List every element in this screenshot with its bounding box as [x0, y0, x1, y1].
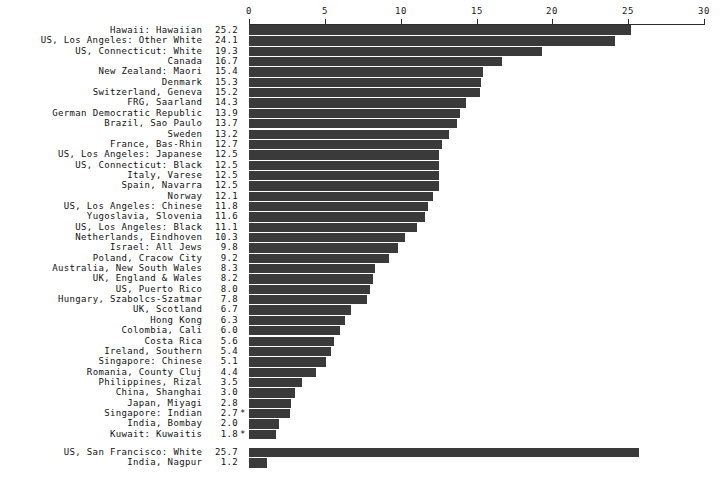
x-axis-tick-label: 10: [395, 7, 407, 16]
category-value: 1.8: [208, 429, 238, 439]
bar: [249, 273, 373, 283]
bar-row: Netherlands, Eindhoven 10.3: [0, 232, 725, 242]
category-name: India, Nagpur: [127, 457, 208, 467]
bar: [249, 263, 375, 273]
x-axis-tick: [325, 19, 326, 24]
bar-row: US, Puerto Rico 8.0: [0, 284, 725, 294]
category-name: Philippines, Rizal: [98, 377, 208, 387]
category-value: 10.3: [208, 232, 238, 242]
bar: [249, 408, 290, 418]
category-name: Singapore: Indian: [104, 408, 208, 418]
bar: [249, 118, 457, 128]
bar-row: Norway 12.1: [0, 191, 725, 201]
category-name: UK, Scotland: [133, 304, 208, 314]
bar-row-label: Philippines, Rizal 3.5: [98, 377, 238, 387]
bar-row-label: Spain, Navarra 12.5: [121, 180, 238, 190]
category-name: Hong Kong: [150, 315, 208, 325]
bar-row: Sweden 13.2: [0, 129, 725, 139]
bar-row-label: Norway 12.1: [168, 191, 238, 201]
footnote-asterisk: *: [240, 429, 245, 439]
x-axis-tick: [401, 19, 402, 24]
bar-row-label: US, Los Angeles: Chinese 11.8: [64, 201, 238, 211]
category-value: 2.8: [208, 398, 238, 408]
bar-row: US, Los Angeles: Chinese 11.8: [0, 201, 725, 211]
category-value: 19.3: [208, 46, 238, 56]
category-value: 2.0: [208, 418, 238, 428]
bar: [249, 66, 483, 76]
x-axis-tick: [552, 19, 553, 24]
bar-row-label: Canada 16.7: [168, 56, 238, 66]
bar-row: New Zealand: Maori 15.4: [0, 66, 725, 76]
category-value: 13.7: [208, 118, 238, 128]
bar-row-label: Kuwait: Kuwaitis 1.8: [110, 429, 238, 439]
bar-row: Italy, Varese 12.5: [0, 170, 725, 180]
category-value: 3.5: [208, 377, 238, 387]
category-name: China, Shanghai: [116, 387, 208, 397]
bar-row: Poland, Cracow City 9.2: [0, 253, 725, 263]
bar-row: Hawaii: Hawaiian 25.2: [0, 25, 725, 35]
bar-row: UK, England & Wales 8.2: [0, 273, 725, 283]
category-name: Canada: [168, 56, 208, 66]
bar: [249, 170, 439, 180]
category-name: Japan, Miyagi: [127, 398, 208, 408]
x-axis-tick: [249, 19, 250, 24]
bar: [249, 387, 295, 397]
bar-row: US, Los Angeles: Other White 24.1: [0, 35, 725, 45]
category-name: Poland, Cracow City: [93, 253, 208, 263]
bar-row: Brazil, Sao Paulo 13.7: [0, 118, 725, 128]
category-value: 12.5: [208, 149, 238, 159]
bar-row: France, Bas-Rhin 12.7: [0, 139, 725, 149]
bar: [249, 315, 345, 325]
bar: [249, 191, 433, 201]
category-name: Netherlands, Eindhoven: [75, 232, 208, 242]
bar-row-label: Romania, County Cluj 4.4: [87, 367, 238, 377]
category-value: 5.4: [208, 346, 238, 356]
category-value: 12.5: [208, 170, 238, 180]
category-name: Australia, New South Wales: [52, 263, 208, 273]
bar-row-label: Hawaii: Hawaiian 25.2: [110, 25, 238, 35]
bar-row-label: Netherlands, Eindhoven 10.3: [75, 232, 238, 242]
bar: [249, 35, 615, 45]
bar-row-label: France, Bas-Rhin 12.7: [110, 139, 238, 149]
bar-row: India, Nagpur 1.2: [0, 457, 725, 467]
bar: [249, 377, 302, 387]
bar-row: Philippines, Rizal 3.5: [0, 377, 725, 387]
category-name: Denmark: [162, 77, 208, 87]
bar-row-label: Poland, Cracow City 9.2: [93, 253, 238, 263]
bar: [249, 232, 405, 242]
bar-row-label: UK, England & Wales 8.2: [93, 273, 238, 283]
bar-row: Singapore: Chinese 5.1: [0, 356, 725, 366]
category-name: Sweden: [168, 129, 208, 139]
bar-row: Kuwait: Kuwaitis 1.8*: [0, 429, 725, 439]
bar-row-label: China, Shanghai 3.0: [116, 387, 238, 397]
bar: [249, 418, 279, 428]
bar-row: FRG, Saarland 14.3: [0, 97, 725, 107]
bar-row: Singapore: Indian 2.7*: [0, 408, 725, 418]
bar: [249, 46, 542, 56]
bar-row: Yugoslavia, Slovenia 11.6: [0, 211, 725, 221]
bar-row: Romania, County Cluj 4.4: [0, 367, 725, 377]
category-value: 1.2: [208, 457, 238, 467]
category-name: Hawaii: Hawaiian: [110, 25, 208, 35]
bar: [249, 242, 398, 252]
category-name: Hungary, Szabolcs-Szatmar: [58, 294, 208, 304]
bar-row: Colombia, Cali 6.0: [0, 325, 725, 335]
category-value: 13.2: [208, 129, 238, 139]
bar: [249, 457, 267, 467]
bar: [249, 108, 460, 118]
bar: [249, 160, 439, 170]
category-name: New Zealand: Maori: [98, 66, 208, 76]
category-name: Switzerland, Geneva: [93, 87, 208, 97]
bar-row-label: Hungary, Szabolcs-Szatmar 7.8: [58, 294, 238, 304]
bar-row-label: Colombia, Cali 6.0: [121, 325, 238, 335]
bar: [249, 180, 439, 190]
category-value: 25.7: [208, 447, 238, 457]
category-name: Spain, Navarra: [121, 180, 208, 190]
bar-row-label: Singapore: Chinese 5.1: [98, 356, 238, 366]
bar-row: Costa Rica 5.6: [0, 336, 725, 346]
bar-row: Hungary, Szabolcs-Szatmar 7.8: [0, 294, 725, 304]
category-value: 8.2: [208, 273, 238, 283]
bar-row-label: US, Los Angeles: Black 11.1: [75, 222, 238, 232]
bar-row: Japan, Miyagi 2.8: [0, 398, 725, 408]
bar-row: Switzerland, Geneva 15.2: [0, 87, 725, 97]
